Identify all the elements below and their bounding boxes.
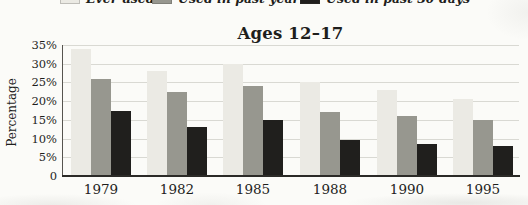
chart-title: Ages 12–17 xyxy=(62,24,519,43)
bar-ever-used-1995 xyxy=(453,99,473,176)
x-tick-1979: 1979 xyxy=(71,181,131,197)
gridline-25 xyxy=(62,82,519,83)
x-axis-line xyxy=(62,175,520,177)
y-tick-25: 25% xyxy=(15,76,57,88)
x-tick-1982: 1982 xyxy=(147,181,207,197)
x-tick-1988: 1988 xyxy=(300,181,360,197)
y-tick-0: 0 xyxy=(15,170,57,182)
bar-used-in-past-year-1995 xyxy=(473,120,493,176)
bar-used-in-past-30-days-1982 xyxy=(187,127,207,176)
legend-swatch-used-in-past-year xyxy=(152,0,172,4)
gridline-30 xyxy=(62,64,519,65)
bar-used-in-past-30-days-1988 xyxy=(340,140,360,176)
bar-used-in-past-year-1979 xyxy=(91,79,111,176)
legend-item-ever-used: Ever used xyxy=(60,0,155,5)
gridline-20 xyxy=(62,101,519,102)
y-tick-10: 10% xyxy=(15,133,57,145)
legend-swatch-used-in-past-30-days xyxy=(300,0,320,4)
bar-used-in-past-30-days-1995 xyxy=(493,146,513,176)
x-tick-1990: 1990 xyxy=(377,181,437,197)
bar-used-in-past-year-1988 xyxy=(320,112,340,176)
y-axis-line xyxy=(62,45,63,176)
x-tick-1985: 1985 xyxy=(223,181,283,197)
y-tick-5: 5% xyxy=(15,151,57,163)
bar-used-in-past-year-1985 xyxy=(243,86,263,176)
bar-used-in-past-30-days-1985 xyxy=(263,120,283,176)
legend-label-used-in-past-year: Used in past year xyxy=(178,0,299,6)
y-tick-15: 15% xyxy=(15,114,57,126)
legend-label-ever-used: Ever used xyxy=(86,0,155,6)
y-tick-20: 20% xyxy=(15,95,57,107)
bar-used-in-past-year-1982 xyxy=(167,92,187,176)
bar-ever-used-1979 xyxy=(71,49,91,176)
bar-used-in-past-30-days-1990 xyxy=(417,144,437,176)
bar-ever-used-1990 xyxy=(377,90,397,176)
plot-area xyxy=(62,45,519,176)
figure: Ever used Used in past year Used in past… xyxy=(0,0,528,205)
legend-item-used-in-past-year: Used in past year xyxy=(152,0,299,5)
x-tick-1995: 1995 xyxy=(453,181,513,197)
legend-item-used-in-past-30-days: Used in past 30 days xyxy=(300,0,470,5)
bar-ever-used-1988 xyxy=(300,82,320,176)
y-tick-35: 35% xyxy=(15,39,57,51)
bar-ever-used-1985 xyxy=(223,64,243,176)
gridline-35 xyxy=(62,45,519,46)
bar-used-in-past-30-days-1979 xyxy=(111,111,131,177)
bar-used-in-past-year-1990 xyxy=(397,116,417,176)
y-tick-30: 30% xyxy=(15,58,57,70)
legend-swatch-ever-used xyxy=(60,0,80,4)
bar-ever-used-1982 xyxy=(147,71,167,176)
legend-label-used-in-past-30-days: Used in past 30 days xyxy=(326,0,470,6)
